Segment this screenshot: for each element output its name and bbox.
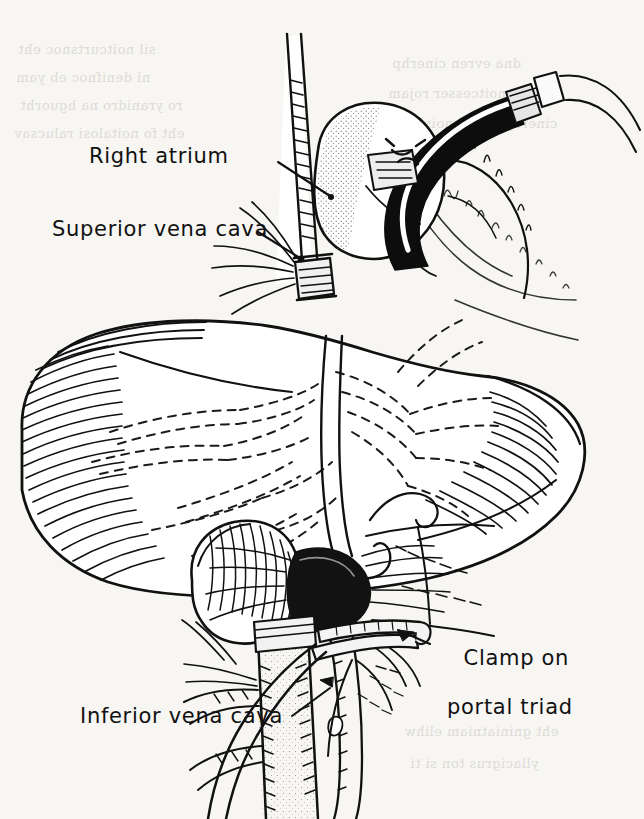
cannula-tubing xyxy=(560,75,640,152)
leader-dot-right-atrium xyxy=(328,194,334,200)
label-superior-vena-cava: Superior vena cava xyxy=(52,217,268,242)
illustration-page: sil noitcurtsnoc eht ni denifnoc eb yam … xyxy=(0,0,644,819)
ivc-ligature-band xyxy=(254,616,316,652)
cannula-connector xyxy=(506,72,564,123)
label-right-atrium: Right atrium xyxy=(89,144,229,169)
label-clamp-on-portal-triad: Clamp on portal triad xyxy=(434,621,573,770)
periportal-texture xyxy=(358,666,403,714)
arrowhead-inferior-vena-cava xyxy=(320,677,333,687)
diaphragm-texture xyxy=(424,181,569,288)
label-clamp-line1: Clamp on xyxy=(464,646,570,670)
leader-dot-superior-vena-cava xyxy=(298,256,305,263)
label-inferior-vena-cava: Inferior vena cava xyxy=(80,704,283,729)
label-clamp-line2: portal triad xyxy=(434,695,573,720)
